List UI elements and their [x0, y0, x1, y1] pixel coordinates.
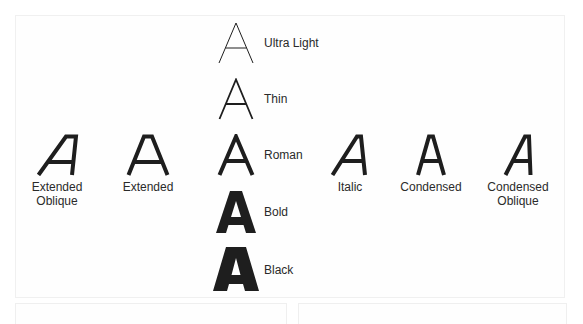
width-label-italic: Italic	[320, 180, 380, 194]
glyph-thin	[218, 78, 254, 120]
glyph-italic	[330, 134, 370, 176]
width-label-extended-oblique: Extended Oblique	[24, 180, 90, 208]
glyph-black	[213, 246, 259, 292]
lower-right-panel	[298, 303, 567, 324]
weight-label-thin: Thin	[264, 92, 287, 106]
glyph-extended-oblique	[36, 134, 82, 176]
glyph-bold	[215, 190, 257, 234]
width-label-condensed-oblique: Condensed Oblique	[482, 180, 554, 208]
glyph-roman	[217, 134, 255, 176]
width-label-extended: Extended	[115, 180, 181, 194]
glyph-extended	[126, 134, 170, 176]
glyph-condensed-oblique	[503, 134, 535, 176]
weight-label-roman: Roman	[264, 148, 303, 162]
weight-label-ultra-light: Ultra Light	[264, 36, 319, 50]
weight-label-black: Black	[264, 263, 293, 277]
glyph-condensed	[415, 134, 447, 176]
glyph-ultra-light	[218, 22, 254, 64]
lower-left-panel	[15, 303, 287, 324]
width-label-condensed: Condensed	[396, 180, 466, 194]
weight-label-bold: Bold	[264, 205, 288, 219]
